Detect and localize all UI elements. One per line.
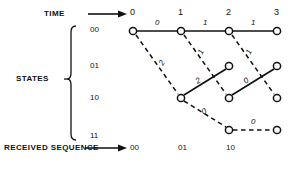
node-00-t1 [177,27,184,34]
state-tick-01: 01 [90,62,99,70]
node-11-t3 [273,126,280,133]
branch-10t1-01t2 [184,69,226,95]
branch-00t2-10t3 [232,35,274,94]
time-tick-0: 0 [130,8,135,17]
node-01-t3 [273,62,280,69]
node-11-t2 [225,126,232,133]
received-sequence-label: RECEIVED SEQUENCE [4,144,99,152]
time-tick-3: 3 [274,8,279,17]
node-10-t3 [273,94,280,101]
node-10-t1 [177,94,184,101]
branch-metric-top-2-3: 1 [251,19,255,27]
branch-00t1-10t2 [184,35,226,94]
trellis-nodes [129,27,280,133]
state-tick-10: 10 [90,94,99,102]
time-tick-1: 1 [178,8,183,17]
state-tick-00: 00 [90,26,99,34]
time-arrow [88,11,127,18]
branch-10t2-01t3 [232,69,274,95]
states-axis-label: STATES [16,75,49,83]
branch-00t0-10t1 [136,35,178,94]
branch-metric-top-0-1: 0 [155,19,159,27]
node-00-t3 [273,27,280,34]
node-01-t2 [225,62,232,69]
node-00-t2 [225,27,232,34]
state-tick-11: 11 [90,132,98,140]
node-00-t0 [129,27,136,34]
time-axis-label: TIME [44,10,65,18]
node-10-t2 [225,94,232,101]
branch-metric-top-1-2: 1 [203,19,207,27]
trellis-diagram: TIME STATES RECEIVED SEQUENCE 0 1 2 3 00… [0,0,299,172]
branch-metric-11t2-11t3: 0 [251,118,255,126]
states-brace [64,26,76,140]
received-seq-10: 10 [226,144,235,152]
time-tick-2: 2 [226,8,231,17]
received-seq-00: 00 [130,144,139,152]
received-seq-01: 01 [178,144,187,152]
